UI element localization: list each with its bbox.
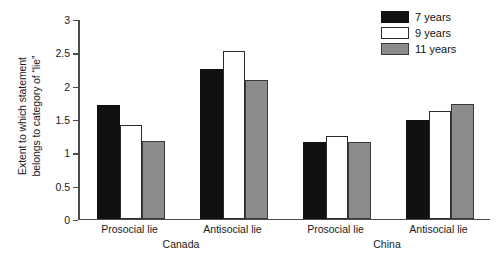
x-axis-group-label: Canada xyxy=(163,238,200,250)
legend-item: 11 years xyxy=(381,42,456,55)
bar xyxy=(326,136,349,219)
x-axis-category-label: Prosocial lie xyxy=(101,223,158,235)
x-axis-category-label: Antisocial lie xyxy=(409,223,467,235)
x-axis-line xyxy=(78,219,490,221)
bar xyxy=(348,142,371,219)
y-tick-mark xyxy=(73,87,78,88)
y-tick-label: 2 xyxy=(64,81,70,93)
legend-item: 9 years xyxy=(381,26,456,39)
bar xyxy=(120,125,143,218)
bar xyxy=(406,120,429,219)
legend: 7 years9 years11 years xyxy=(381,10,456,55)
legend-label: 11 years xyxy=(415,43,456,55)
y-tick-label: 0 xyxy=(64,214,70,226)
legend-label: 9 years xyxy=(415,27,451,39)
x-axis-labels: Prosocial lieAntisocial lieProsocial lie… xyxy=(78,223,490,257)
bar xyxy=(200,69,223,219)
y-tick-mark xyxy=(73,153,78,154)
y-tick-mark xyxy=(73,20,78,21)
y-tick-mark xyxy=(73,120,78,121)
bar xyxy=(142,141,165,219)
y-tick-mark xyxy=(73,220,78,221)
x-axis-category-label: Prosocial lie xyxy=(307,223,364,235)
legend-item: 7 years xyxy=(381,10,456,23)
x-axis-group-label: China xyxy=(373,238,400,250)
bar xyxy=(451,104,474,219)
bar xyxy=(97,105,120,218)
bar xyxy=(303,142,326,219)
legend-swatch-icon xyxy=(381,11,409,23)
legend-swatch-icon xyxy=(381,43,409,55)
y-tick-mark xyxy=(73,53,78,54)
bar xyxy=(429,111,452,219)
y-axis-title-line-2: belongs to category of “lie” xyxy=(29,56,43,177)
bar xyxy=(245,80,268,219)
y-tick-label: 2.5 xyxy=(55,47,70,59)
y-axis-title: Extent to which statement belongs to cat… xyxy=(0,0,58,232)
x-axis-category-label: Antisocial lie xyxy=(203,223,261,235)
bar xyxy=(223,51,246,219)
y-axis-title-line-1: Extent to which statement xyxy=(15,57,29,175)
bar-chart-figure: Extent to which statement belongs to cat… xyxy=(0,0,504,257)
y-tick-label: 0.5 xyxy=(55,181,70,193)
y-tick-label: 3 xyxy=(64,14,70,26)
y-tick-label: 1 xyxy=(64,147,70,159)
y-tick-mark xyxy=(73,187,78,188)
legend-label: 7 years xyxy=(415,11,451,23)
y-tick-label: 1.5 xyxy=(55,114,70,126)
legend-swatch-icon xyxy=(381,27,409,39)
